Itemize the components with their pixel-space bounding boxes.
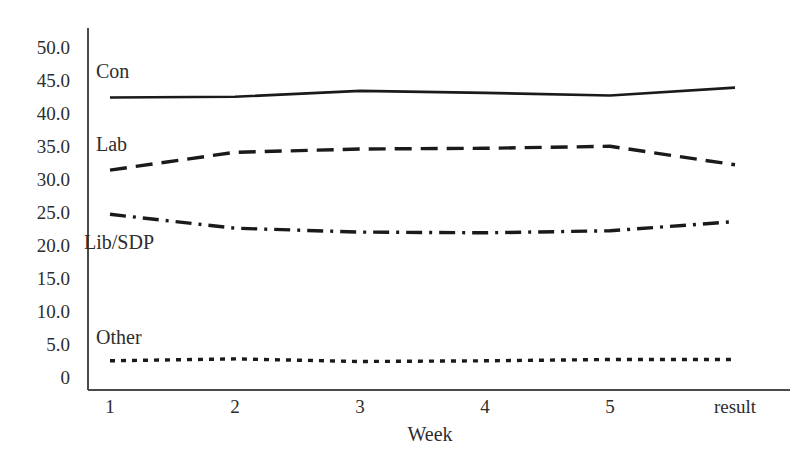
x-tick-label: 5 [605, 397, 615, 416]
y-tick-label: 10.0 [8, 302, 70, 321]
series-line-con [110, 88, 735, 98]
series-line-lab [110, 146, 735, 170]
series-label-lib-sdp: Lib/SDP [84, 232, 154, 252]
x-tick-label: 2 [230, 397, 240, 416]
series-line-lib-sdp [110, 214, 735, 233]
y-tick-label: 35.0 [8, 137, 70, 156]
series-label-lab: Lab [96, 134, 127, 154]
series-line-other [110, 359, 735, 362]
y-tick-label: 20.0 [8, 236, 70, 255]
y-tick-label: 50.0 [8, 38, 70, 57]
y-tick-label: 15.0 [8, 269, 70, 288]
x-tick-label: 3 [355, 397, 365, 416]
y-tick-label: 45.0 [8, 71, 70, 90]
x-axis-title: Week [407, 424, 452, 444]
series-lines [110, 88, 735, 362]
axes [88, 28, 790, 390]
y-tick-label: 5.0 [8, 335, 70, 354]
x-tick-label: 4 [480, 397, 490, 416]
y-tick-label: 0 [8, 368, 70, 387]
series-label-con: Con [96, 61, 129, 81]
series-label-other: Other [96, 327, 142, 347]
x-tick-label: result [714, 397, 756, 416]
line-chart: 50.045.040.035.030.025.020.015.010.05.00… [0, 0, 805, 456]
y-tick-label: 30.0 [8, 170, 70, 189]
x-tick-label: 1 [105, 397, 115, 416]
y-tick-label: 25.0 [8, 203, 70, 222]
y-tick-label: 40.0 [8, 104, 70, 123]
